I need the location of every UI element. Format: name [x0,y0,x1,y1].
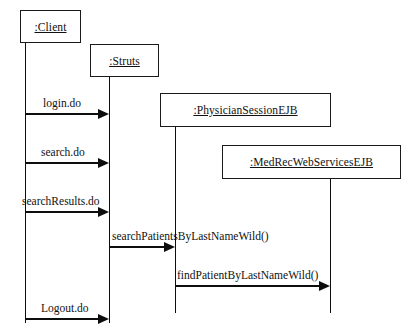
message-line-search-patients-by-last-name-wild [109,246,167,248]
message-arrowhead-login [98,109,109,119]
lifeline-label-medrec-web-services-ejb: :MedRecWebServicesEJB [250,156,373,168]
sequence-diagram-canvas: :Client:Struts:PhysicianSessionEJB:MedRe… [0,0,405,331]
message-label-find-patient-by-last-name-wild: findPatientByLastNameWild() [177,269,318,281]
message-line-search-results [25,211,101,213]
message-line-find-patient-by-last-name-wild [175,285,322,287]
message-arrowhead-find-patient-by-last-name-wild [319,281,330,291]
message-label-search-results: searchResults.do [22,195,100,207]
message-label-search: search.do [41,146,85,158]
message-line-logout [25,318,101,320]
lifeline-box-physician-session-ejb[interactable]: :PhysicianSessionEJB [160,93,331,127]
message-line-search [25,162,101,164]
lifeline-label-client: :Client [34,21,66,33]
message-label-login: login.do [43,97,81,109]
message-arrowhead-search [98,158,109,168]
lifeline-label-struts: :Struts [109,55,140,67]
lifeline-box-struts[interactable]: :Struts [90,44,159,77]
message-arrowhead-logout [98,314,109,324]
message-label-search-patients-by-last-name-wild: searchPatientsByLastNameWild() [112,230,269,242]
lifeline-stem-struts [109,77,110,323]
message-label-logout: Logout.do [41,302,89,314]
message-arrowhead-search-results [98,207,109,217]
lifeline-stem-medrec-web-services-ejb [330,179,331,313]
message-arrowhead-search-patients-by-last-name-wild [164,242,175,252]
lifeline-label-physician-session-ejb: :PhysicianSessionEJB [193,104,297,116]
lifeline-box-client[interactable]: :Client [20,10,81,43]
lifeline-box-medrec-web-services-ejb[interactable]: :MedRecWebServicesEJB [222,145,401,179]
message-line-login [25,113,101,115]
lifeline-stem-client [25,43,26,323]
